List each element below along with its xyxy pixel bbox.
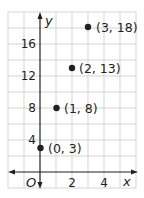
y-tick-label: 16 [21, 37, 36, 51]
x-tick-label: 4 [100, 176, 108, 190]
x-axis [8, 170, 138, 175]
y-axis-label: y [44, 13, 53, 28]
y-axis-up-arrow-icon [38, 12, 43, 19]
data-points [37, 24, 91, 151]
point-label: (2, 13) [79, 61, 121, 76]
data-point [85, 24, 91, 30]
data-point [53, 105, 59, 111]
x-axis-left-arrow-icon [8, 170, 15, 175]
data-point [37, 145, 43, 151]
point-label: (3, 18) [96, 20, 138, 35]
coordinate-plane: y x O 2 4 16 12 8 4 (0, 3) (1, 8) (2, 13… [0, 0, 144, 198]
y-tick-label: 12 [21, 69, 36, 83]
x-axis-right-arrow-icon [131, 170, 138, 175]
y-tick-label: 8 [28, 101, 36, 115]
point-label: (1, 8) [64, 101, 98, 116]
x-tick-label: 2 [68, 176, 76, 190]
y-axis [38, 12, 43, 189]
data-point [69, 65, 75, 71]
x-axis-label: x [122, 174, 131, 189]
y-tick-label: 4 [28, 133, 36, 147]
point-label: (0, 3) [48, 141, 82, 156]
origin-label: O [26, 175, 36, 190]
